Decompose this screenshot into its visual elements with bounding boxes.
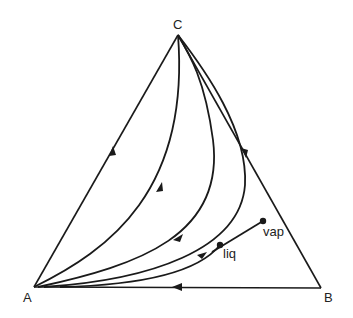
vertex-label-c: C xyxy=(173,17,182,32)
arrow-edge-a-c-icon xyxy=(109,146,116,156)
arrow-curve-2-icon xyxy=(173,234,183,242)
edge-c-b xyxy=(178,35,321,288)
liq-label: liq xyxy=(223,246,236,261)
vap-label: vap xyxy=(263,224,284,239)
vertex-label-b: B xyxy=(324,290,333,305)
residue-curve-2 xyxy=(38,35,214,287)
ternary-diagram: C A B liq vap xyxy=(0,0,353,318)
arrow-curve-1-icon xyxy=(156,182,163,192)
vertex-label-a: A xyxy=(23,290,32,305)
arrow-edge-b-a-icon xyxy=(172,283,182,291)
